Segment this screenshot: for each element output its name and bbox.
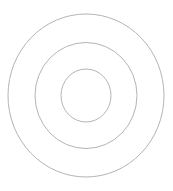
inner-ring <box>61 69 111 122</box>
concentric-circles-diagram <box>0 0 173 191</box>
middle-ring <box>35 43 137 149</box>
outer-ring <box>8 14 164 177</box>
